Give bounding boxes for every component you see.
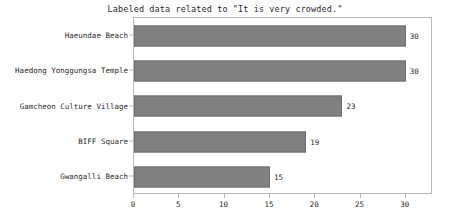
bar-track: 30 (134, 53, 431, 88)
y-tick-label: Gamcheon Culture Village (20, 101, 128, 110)
y-tick-label: BIFF Square (78, 136, 128, 145)
bar-value-label: 30 (410, 31, 419, 40)
y-tick-mark (129, 105, 133, 106)
bar-biff-square[interactable] (134, 131, 306, 152)
plot-area: 3030231915 (133, 17, 432, 194)
y-tick-label: Gwangalli Beach (60, 172, 128, 181)
bar-haedong-yonggungsa-temple[interactable] (134, 61, 406, 82)
y-tick-mark (129, 70, 133, 71)
bar-value-label: 15 (274, 173, 283, 182)
x-tick-mark (269, 194, 270, 198)
y-tick-label: Haedong Yonggungsa Temple (15, 66, 128, 75)
x-tick-mark (178, 194, 179, 198)
bar-track: 15 (134, 160, 431, 195)
y-tick-label: Haeundae Beach (65, 30, 128, 39)
y-tick-mark (129, 140, 133, 141)
chart-title: Labeled data related to "It is very crow… (0, 4, 450, 14)
x-tick-label: 0 (131, 200, 136, 209)
y-tick-mark (129, 34, 133, 35)
bar-value-label: 19 (310, 137, 319, 146)
bar-haeundae-beach[interactable] (134, 25, 406, 46)
bar-value-label: 23 (346, 102, 355, 111)
x-tick-label: 30 (400, 200, 409, 209)
x-tick-label: 10 (219, 200, 228, 209)
x-tick-label: 25 (355, 200, 364, 209)
bar-chart-figure: Labeled data related to "It is very crow… (0, 0, 450, 221)
bar-gwangalli-beach[interactable] (134, 167, 270, 188)
bar-gamcheon-culture-village[interactable] (134, 96, 342, 117)
bar-track: 19 (134, 124, 431, 159)
bar-value-label: 30 (410, 67, 419, 76)
y-tick-mark (129, 176, 133, 177)
bar-track: 23 (134, 89, 431, 124)
bar-track: 30 (134, 18, 431, 53)
x-tick-mark (224, 194, 225, 198)
x-tick-mark (360, 194, 361, 198)
x-tick-label: 20 (310, 200, 319, 209)
x-tick-label: 15 (264, 200, 273, 209)
x-tick-label: 5 (176, 200, 181, 209)
x-tick-mark (133, 194, 134, 198)
bars-layer: 3030231915 (134, 18, 431, 193)
x-tick-mark (314, 194, 315, 198)
x-tick-mark (405, 194, 406, 198)
